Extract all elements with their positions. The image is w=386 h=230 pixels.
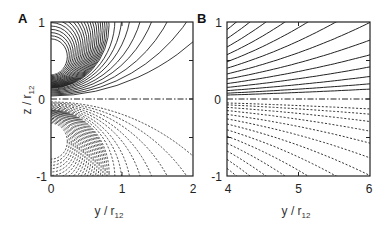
panel-a-ytick-0: 0 [38, 93, 45, 107]
panel-a-xtick-1: 1 [119, 182, 126, 196]
panel-a-ylabel: z / r12 [20, 85, 36, 114]
panel-a-xtick-2: 2 [190, 182, 197, 196]
panel-b: B 4 5 6 1 0 -1 y / r12 [197, 0, 373, 230]
panel-b-ytick-neg1: -1 [211, 170, 222, 184]
panel-a-contours [0, 0, 278, 230]
panel-a: A 0 1 2 1 0 -1 y / r12 z / r12 [0, 0, 278, 230]
panel-b-label: B [197, 11, 206, 26]
panel-b-ytick-1: 1 [215, 16, 222, 30]
panel-b-xlabel: y / r12 [282, 204, 311, 220]
panel-a-xtick-0: 0 [48, 182, 55, 196]
panel-a-ytick-neg1: -1 [36, 170, 47, 184]
panel-b-xtick-6: 6 [366, 182, 373, 196]
figure: A 0 1 2 1 0 -1 y / r12 z / r12 B 4 5 [0, 0, 386, 230]
panel-b-xtick-5: 5 [295, 182, 302, 196]
panel-a-ytick-1: 1 [38, 16, 45, 30]
panel-a-label: A [18, 11, 28, 26]
panel-a-xlabel: y / r12 [95, 204, 124, 220]
panel-b-ytick-0: 0 [214, 93, 221, 107]
panel-b-xtick-4: 4 [225, 182, 232, 196]
